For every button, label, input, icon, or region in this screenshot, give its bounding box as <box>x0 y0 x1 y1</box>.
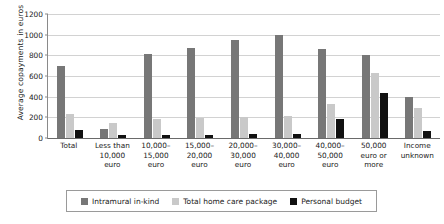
bar <box>362 55 370 138</box>
bar <box>371 73 379 138</box>
y-tick-label: 200 <box>29 113 43 122</box>
x-axis-label: Total <box>47 141 91 170</box>
bar <box>57 66 65 138</box>
bar <box>275 35 283 138</box>
bar <box>66 114 74 138</box>
y-tick-label: 1200 <box>24 10 43 19</box>
legend-label: Intramural in-kind <box>92 197 159 206</box>
bar <box>327 104 335 138</box>
y-tick-label: 400 <box>29 92 43 101</box>
bar-chart-figure: Average copayments in euros 020040060080… <box>0 0 444 224</box>
bar <box>231 40 239 138</box>
plot-area: 020040060080010001200 <box>47 14 440 139</box>
bar <box>109 123 117 139</box>
bar-groups <box>48 14 440 138</box>
x-axis-labels: TotalLess than 10,000 euro10,000– 15,000… <box>47 141 439 170</box>
bar <box>118 135 126 138</box>
y-axis-title: Average copayments in euros <box>16 0 25 138</box>
bar-group <box>397 14 441 138</box>
legend-item[interactable]: Intramural in-kind <box>81 197 159 206</box>
bar <box>196 118 204 138</box>
legend-swatch-icon <box>290 198 297 205</box>
bar-group <box>179 14 223 138</box>
bar <box>75 130 83 138</box>
x-axis-label: 15,000– 20,000 euro <box>178 141 222 170</box>
x-axis-label: Less than 10,000 euro <box>91 141 135 170</box>
bar <box>423 131 431 138</box>
bar-group <box>353 14 397 138</box>
bar-group <box>48 14 92 138</box>
bar <box>153 119 161 138</box>
bar <box>380 93 388 138</box>
x-axis-label: 10,000– 15,000 euro <box>134 141 178 170</box>
bar <box>414 108 422 138</box>
y-tick-label: 1000 <box>24 30 43 39</box>
bar <box>144 54 152 138</box>
bar <box>318 49 326 138</box>
bar <box>162 135 170 138</box>
y-tick-label: 0 <box>38 134 43 143</box>
legend-label: Personal budget <box>301 197 362 206</box>
x-axis-label: 40,000– 50,000 euro <box>308 141 352 170</box>
bar-group <box>309 14 353 138</box>
x-axis-label: Income unknown <box>396 141 440 170</box>
bar <box>405 97 413 138</box>
legend-item[interactable]: Total home care package <box>172 197 277 206</box>
bar-group <box>92 14 136 138</box>
y-tick-label: 800 <box>29 51 43 60</box>
bar-group <box>135 14 179 138</box>
bar <box>336 119 344 138</box>
x-axis-label: 30,000– 40,000 euro <box>265 141 309 170</box>
legend-swatch-icon <box>172 198 179 205</box>
bar <box>240 117 248 138</box>
bar <box>284 116 292 138</box>
legend-swatch-icon <box>81 198 88 205</box>
bar <box>249 134 257 138</box>
bar <box>205 135 213 138</box>
bar-group <box>266 14 310 138</box>
bar <box>293 134 301 138</box>
x-axis-label: 50,000 euro or more <box>352 141 396 170</box>
y-tick-label: 600 <box>29 72 43 81</box>
bar-group <box>222 14 266 138</box>
bar <box>100 129 108 138</box>
chart-legend: Intramural in-kindTotal home care packag… <box>66 190 377 212</box>
bar <box>187 48 195 138</box>
x-axis-label: 20,000– 30,000 euro <box>221 141 265 170</box>
legend-item[interactable]: Personal budget <box>290 197 362 206</box>
legend-label: Total home care package <box>183 197 277 206</box>
